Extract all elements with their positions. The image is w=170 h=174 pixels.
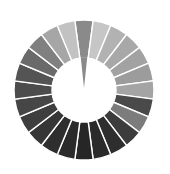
ring-segments bbox=[14, 20, 154, 160]
segmented-ring-dial bbox=[0, 0, 170, 174]
needle-indicator-icon bbox=[81, 57, 87, 88]
